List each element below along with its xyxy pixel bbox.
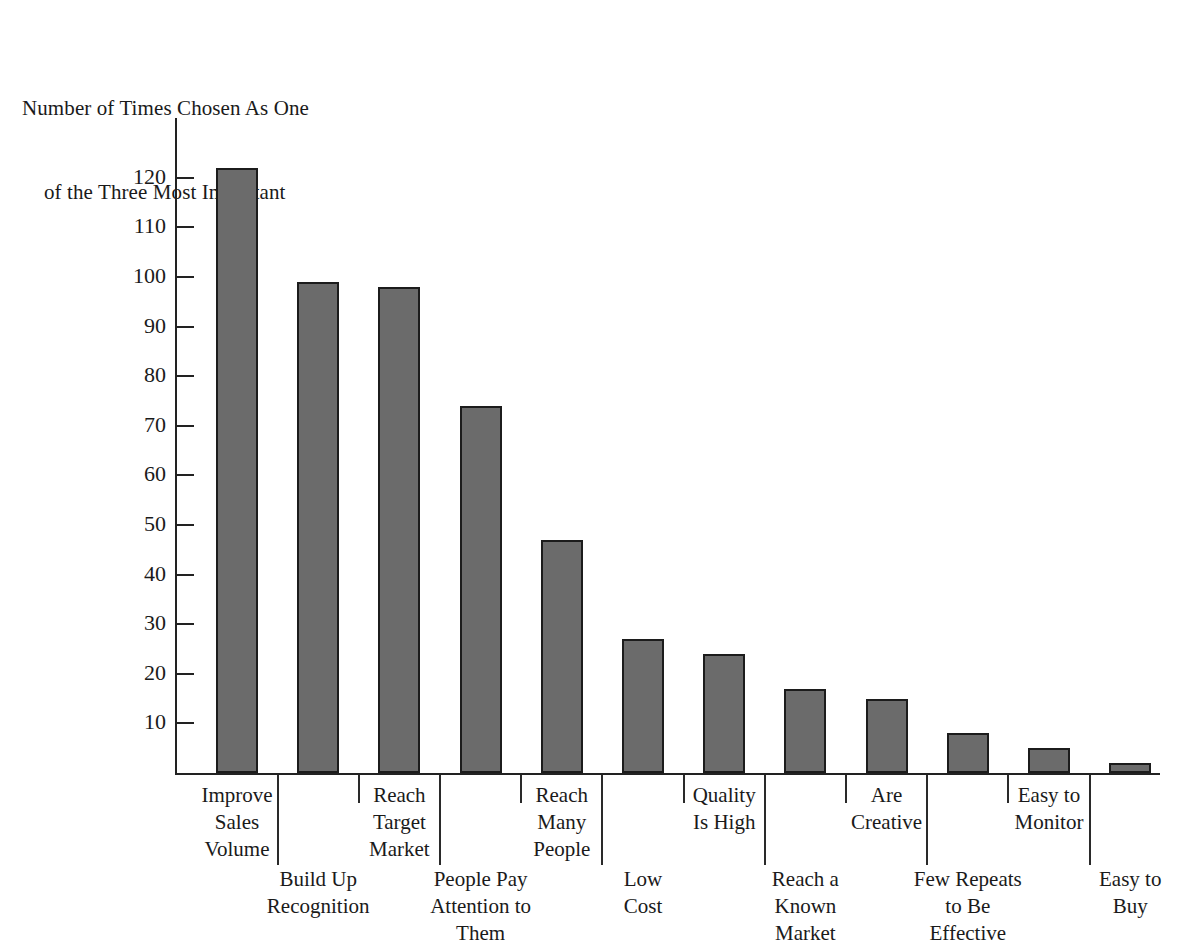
y-axis-tick-label-text: 50 bbox=[106, 513, 166, 535]
y-axis-tick-label-text: 40 bbox=[106, 563, 166, 585]
y-axis-title-line1: Number of Times Chosen As One bbox=[22, 94, 309, 122]
y-axis-tick-label: 90 bbox=[100, 315, 166, 337]
bar bbox=[297, 282, 339, 773]
y-axis-tick-label: 60 bbox=[100, 463, 166, 485]
bar bbox=[541, 540, 583, 773]
y-axis-tick-label: 30 bbox=[100, 612, 166, 634]
y-axis-tick bbox=[177, 673, 194, 675]
bar bbox=[1109, 763, 1151, 773]
x-axis-category-label: People Pay Attention to Them bbox=[401, 866, 561, 944]
y-axis-tick-label: 120 bbox=[100, 166, 166, 188]
y-axis-tick-label-text: 110 bbox=[106, 215, 166, 237]
y-axis-tick bbox=[177, 574, 194, 576]
y-axis-tick-label: 10 bbox=[100, 711, 166, 733]
y-axis-tick-label-text: 10 bbox=[106, 711, 166, 733]
y-axis-tick bbox=[177, 326, 194, 328]
y-axis-line bbox=[175, 118, 177, 775]
bar bbox=[1028, 748, 1070, 773]
y-axis-tick bbox=[177, 177, 194, 179]
x-axis-category-label: Easy to Monitor bbox=[969, 782, 1129, 836]
x-axis-category-label: Quality Is High bbox=[644, 782, 804, 836]
y-axis-tick bbox=[177, 623, 194, 625]
y-axis-tick-label-text: 20 bbox=[106, 662, 166, 684]
y-axis-tick bbox=[177, 425, 194, 427]
y-axis-tick bbox=[177, 226, 194, 228]
bar bbox=[622, 639, 664, 773]
y-axis-tick-label-text: 100 bbox=[106, 265, 166, 287]
bar bbox=[378, 287, 420, 773]
x-axis-category-label: Build Up Recognition bbox=[238, 866, 398, 920]
x-axis-category-label: Reach Many People bbox=[482, 782, 642, 863]
bar bbox=[866, 699, 908, 773]
y-axis-tick-label: 110 bbox=[100, 215, 166, 237]
y-axis-tick bbox=[177, 276, 194, 278]
y-axis-tick-label: 50 bbox=[100, 513, 166, 535]
y-axis-tick-label-text: 30 bbox=[106, 612, 166, 634]
bar bbox=[703, 654, 745, 773]
bar bbox=[784, 689, 826, 773]
bar bbox=[460, 406, 502, 773]
y-axis-tick-label-text: 120 bbox=[106, 166, 166, 188]
x-axis-category-label: Easy to Buy bbox=[1050, 866, 1190, 920]
y-axis-tick-label: 70 bbox=[100, 414, 166, 436]
x-axis-category-label: Few Repeats to Be Effective bbox=[888, 866, 1048, 944]
x-axis-category-label: Reach a Known Market bbox=[725, 866, 885, 944]
y-axis-tick bbox=[177, 474, 194, 476]
x-axis-category-label: Are Creative bbox=[807, 782, 967, 836]
y-axis-tick-label: 20 bbox=[100, 662, 166, 684]
y-axis-tick-label: 40 bbox=[100, 563, 166, 585]
y-axis-tick bbox=[177, 375, 194, 377]
y-axis-tick-label-text: 90 bbox=[106, 315, 166, 337]
y-axis-tick-label-text: 70 bbox=[106, 414, 166, 436]
y-axis-tick-label-text: 80 bbox=[106, 364, 166, 386]
y-axis-tick bbox=[177, 722, 194, 724]
x-axis-category-label: Improve Sales Volume bbox=[157, 782, 317, 863]
y-axis-tick bbox=[177, 524, 194, 526]
y-axis-tick-label: 80 bbox=[100, 364, 166, 386]
bar-chart: Number of Times Chosen As One of the Thr… bbox=[0, 0, 1190, 944]
bar bbox=[947, 733, 989, 773]
x-axis-category-label: Low Cost bbox=[563, 866, 723, 920]
x-axis-line bbox=[175, 773, 1160, 775]
y-axis-tick-label-text: 60 bbox=[106, 463, 166, 485]
y-axis-tick-label: 100 bbox=[100, 265, 166, 287]
bar bbox=[216, 168, 258, 773]
x-axis-category-label: Reach Target Market bbox=[319, 782, 479, 863]
